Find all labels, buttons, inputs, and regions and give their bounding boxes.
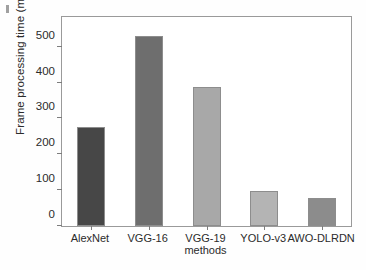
x-axis-tick xyxy=(91,226,92,230)
x-axis-category-label-awo-dlrdn: AWO-DLRDN xyxy=(287,232,354,244)
y-axis-tick-label: 300 xyxy=(36,100,55,112)
bar-vgg-16 xyxy=(135,36,163,226)
y-axis-tick xyxy=(57,225,62,226)
y-axis-tick-label: 500 xyxy=(36,29,55,41)
y-axis-tick xyxy=(57,46,62,47)
x-axis-tick xyxy=(264,226,265,230)
x-axis-category-label-alexnet: AlexNet xyxy=(71,232,110,244)
x-axis-tick xyxy=(149,226,150,230)
x-axis-tick xyxy=(322,226,323,230)
y-axis-tick-label: 0 xyxy=(49,208,55,220)
y-axis-tick xyxy=(57,82,62,83)
plot-frame: 0100200300400500 xyxy=(61,16,352,227)
y-axis-tick-label: 400 xyxy=(36,65,55,77)
bar-yolo-v3 xyxy=(250,191,278,226)
plot-area: 0100200300400500 xyxy=(62,17,351,226)
y-axis-tick xyxy=(57,153,62,154)
y-axis-tick-label: 100 xyxy=(36,172,55,184)
y-axis-tick xyxy=(57,189,62,190)
x-axis-category-label-vgg-16: VGG-16 xyxy=(128,232,168,244)
bar-awo-dlrdn xyxy=(308,198,336,226)
bar-chart-figure: Frame processing time (ms) 0100200300400… xyxy=(0,0,366,270)
bar-vgg-19 xyxy=(193,87,221,226)
y-axis-tick-label: 200 xyxy=(36,136,55,148)
x-axis-tick xyxy=(207,226,208,230)
x-axis-title: methods xyxy=(184,244,226,256)
x-axis-category-label-vgg-19: VGG-19 xyxy=(185,232,225,244)
scan-artifact xyxy=(6,5,9,13)
y-axis-title: Frame processing time (ms) xyxy=(14,0,26,152)
bar-alexnet xyxy=(77,127,105,226)
y-axis-tick xyxy=(57,117,62,118)
x-axis-category-label-yolo-v3: YOLO-v3 xyxy=(240,232,286,244)
